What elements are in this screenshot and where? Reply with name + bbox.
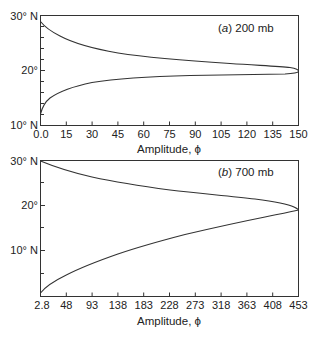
- panel-b-ytick-10: 10° N: [10, 244, 38, 256]
- panel-b-xtick: 183: [135, 299, 153, 311]
- panel-a-xtick: 30: [86, 128, 98, 140]
- panel-b-xtick: 408: [264, 299, 282, 311]
- panel-a-label: (a) 200 mb: [218, 22, 274, 34]
- panel-a-xtick: 150: [289, 128, 307, 140]
- figure: 30° N 20° 10° N 0.0 15 30 45 60 75 90 10…: [0, 0, 317, 337]
- panel-a-x-tick-labels: 0.0 15 30 45 60 75 90 105 120 135 150: [33, 128, 307, 140]
- panel-a-xtick: 120: [238, 128, 256, 140]
- panel-b-x-axis-title: Amplitude, ϕ: [137, 315, 201, 327]
- panel-b-xtick: 2.8: [34, 299, 49, 311]
- panel-a: 30° N 20° 10° N 0.0 15 30 45 60 75 90 10…: [10, 10, 307, 155]
- panel-b-south-curve: [41, 210, 299, 293]
- panel-a-x-ticks: [66, 122, 272, 126]
- panel-b-x-tick-labels: 2.8 48 93 138 183 228 273 318 363 408 45…: [34, 299, 307, 311]
- panel-b-xtick: 93: [86, 299, 98, 311]
- panel-a-xtick: 75: [163, 128, 175, 140]
- panel-b-xtick: 363: [238, 299, 256, 311]
- panel-a-x-axis-title: Amplitude, ϕ: [137, 143, 201, 155]
- panel-b-ytick-20: 20°: [21, 199, 38, 211]
- panel-a-y-ticks: [41, 27, 46, 115]
- panel-a-xtick: 135: [264, 128, 282, 140]
- panel-a-xtick: 0.0: [33, 128, 48, 140]
- panel-b-xtick: 48: [60, 299, 72, 311]
- panel-a-ytick-30: 30° N: [10, 10, 38, 22]
- panel-a-xtick: 90: [189, 128, 201, 140]
- panel-b-x-ticks: [66, 293, 272, 297]
- panel-b-frame: [41, 161, 299, 297]
- panel-a-ytick-20: 20°: [21, 64, 38, 76]
- panel-a-xtick: 60: [138, 128, 150, 140]
- panel-b-xtick: 453: [289, 299, 307, 311]
- panel-b-xtick: 273: [186, 299, 204, 311]
- panel-b-ytick-30: 30° N: [10, 155, 38, 167]
- panel-a-xtick: 105: [212, 128, 230, 140]
- panel-a-xtick: 15: [60, 128, 72, 140]
- panel-b-label: (b) 700 mb: [218, 166, 274, 178]
- panel-a-south-curve: [41, 72, 299, 115]
- panel-b: 30° N 20° 10° N 2.8 48 93 138 183 228 27…: [10, 155, 307, 327]
- panel-b-xtick: 318: [212, 299, 230, 311]
- panel-b-y-ticks: [41, 183, 46, 274]
- panel-b-xtick: 138: [109, 299, 127, 311]
- panel-a-xtick: 45: [112, 128, 124, 140]
- panel-b-xtick: 228: [160, 299, 178, 311]
